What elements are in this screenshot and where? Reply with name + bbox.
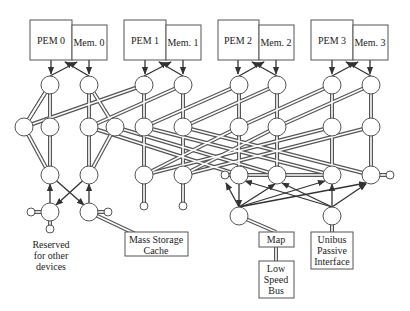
- switch-node-c7: [362, 166, 380, 184]
- switch-node-b3: [174, 118, 192, 136]
- mem-label-1: Mem. 1: [167, 37, 198, 48]
- switch-node-b4: [230, 118, 248, 136]
- mass-storage-cache-box[interactable]: Mass Storage Cache: [125, 232, 188, 256]
- pem-unit-0[interactable]: PEM 0 Mem. 0: [30, 20, 107, 60]
- pem-label-3: PEM 3: [318, 35, 346, 46]
- map-label: Map: [267, 234, 285, 245]
- switch-node-c0: [41, 166, 59, 184]
- switch-node-a4: [230, 76, 248, 94]
- switch-node-c6: [323, 166, 341, 184]
- switch-node-e0: [230, 207, 248, 225]
- switch-node-bL: [15, 118, 33, 136]
- pem-unit-3[interactable]: PEM 3 Mem. 3: [311, 20, 388, 60]
- port-terminal-s3: [27, 208, 35, 216]
- pem-unit-1[interactable]: PEM 1 Mem. 1: [124, 20, 201, 60]
- port-terminal-s4: [104, 208, 112, 216]
- mem-label-3: Mem. 3: [354, 37, 385, 48]
- device-boxes: Reserved for other devices Mass Storage …: [32, 232, 353, 298]
- switch-node-e1: [323, 207, 341, 225]
- reserved-label-line3: devices: [36, 261, 66, 272]
- mem-label-2: Mem. 2: [260, 37, 291, 48]
- low-speed-bus-line1: Low: [267, 263, 286, 274]
- port-terminal-s2: [179, 202, 187, 210]
- low-speed-bus-line3: Bus: [268, 285, 284, 296]
- switch-node-b0: [41, 118, 59, 136]
- port-terminal-s5: [46, 225, 54, 233]
- port-terminal-s6: [221, 171, 229, 179]
- mem-label-0: Mem. 0: [73, 37, 104, 48]
- pem-label-2: PEM 2: [224, 35, 252, 46]
- mass-storage-label-line2: Cache: [144, 245, 170, 256]
- switch-node-c1: [80, 166, 98, 184]
- unibus-line1: Unibus: [318, 234, 347, 245]
- switch-node-a2: [135, 76, 153, 94]
- pem-label-1: PEM 1: [131, 35, 159, 46]
- mass-storage-label-line1: Mass Storage: [129, 234, 184, 245]
- switch-node-bR: [106, 118, 124, 136]
- switch-node-a7: [362, 76, 380, 94]
- switch-node-a0: [41, 76, 59, 94]
- port-terminal-s7: [386, 171, 394, 179]
- network-diagram: PEM 0 Mem. 0 PEM 1 Mem. 1 PEM 2 Mem. 2 P…: [0, 0, 410, 311]
- switch-node-c4: [230, 166, 248, 184]
- port-terminal-s1: [140, 202, 148, 210]
- pem-unit-2[interactable]: PEM 2 Mem. 2: [218, 20, 294, 60]
- switch-node-d1: [80, 203, 98, 221]
- low-speed-bus-line2: Speed: [264, 274, 288, 285]
- low-speed-bus-box[interactable]: Low Speed Bus: [259, 261, 294, 298]
- switch-node-a1: [80, 76, 98, 94]
- pem-boxes: PEM 0 Mem. 0 PEM 1 Mem. 1 PEM 2 Mem. 2 P…: [30, 20, 388, 60]
- switch-node-c3: [174, 166, 192, 184]
- map-box[interactable]: Map: [259, 232, 294, 247]
- switch-node-a5: [268, 76, 286, 94]
- switch-node-b6: [323, 118, 341, 136]
- unibus-line2: Passive: [317, 245, 348, 256]
- switch-node-c5: [268, 166, 286, 184]
- switch-node-c2: [135, 166, 153, 184]
- unibus-passive-interface-box[interactable]: Unibus Passive Interface: [311, 232, 353, 269]
- switch-node-d0: [41, 203, 59, 221]
- switch-node-b2: [135, 118, 153, 136]
- pem-label-0: PEM 0: [37, 35, 65, 46]
- switch-node-b1: [80, 118, 98, 136]
- switch-node-a3: [174, 76, 192, 94]
- unibus-line3: Interface: [314, 256, 350, 267]
- reserved-label-line2: for other: [34, 250, 69, 261]
- switch-node-b7: [362, 118, 380, 136]
- switch-node-b5: [268, 118, 286, 136]
- reserved-label-line1: Reserved: [32, 239, 69, 250]
- switch-node-a6: [323, 76, 341, 94]
